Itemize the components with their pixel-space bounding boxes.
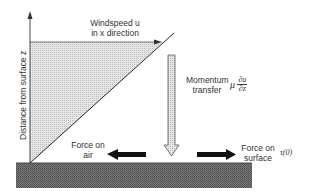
ground-surface: [16, 163, 252, 188]
partial-derivative: ∂u ∂z: [237, 76, 247, 93]
momentum-transfer-label: Momentum transfer: [186, 75, 228, 95]
force-on-surface-arrow: [197, 149, 236, 160]
force-on-surface-label: Force on surface: [238, 143, 278, 163]
y-axis-label: Distance from surface z: [18, 51, 28, 140]
force-on-air-arrow: [107, 149, 146, 160]
windspeed-label: Windspeed u in x direction: [74, 18, 156, 38]
momentum-formula: μ ∂u ∂z: [230, 76, 247, 93]
force-on-air-label: Force on air: [70, 140, 106, 160]
surface-stress-label: τ(0): [280, 148, 292, 158]
momentum-transfer-arrow: [164, 55, 179, 156]
